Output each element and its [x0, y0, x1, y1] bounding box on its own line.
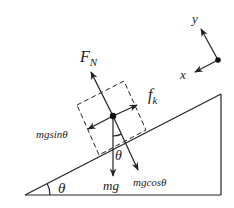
axes-origin-dot	[215, 57, 221, 63]
inner-angle-label: θ	[115, 148, 122, 163]
incline-surface	[25, 94, 221, 195]
force-arrows	[88, 72, 138, 176]
friction-arrow	[113, 105, 137, 116]
weight-label: mg	[103, 178, 119, 193]
normal-force-arrow	[91, 72, 113, 116]
coordinate-axes	[195, 29, 221, 72]
y-axis-arrow	[201, 29, 218, 60]
friction-label: fk	[148, 86, 158, 106]
inner-angle-arc	[113, 134, 121, 136]
normal-force-label: FN	[79, 48, 98, 68]
incline-triangle	[25, 94, 221, 195]
mg-cos-label: mgcosθ	[133, 176, 167, 188]
mg-sin-label: mgsinθ	[36, 128, 68, 140]
incline-diagram: θ θ FN fk mgsinθ mg mgcosθ y x	[0, 0, 234, 208]
center-of-mass-dot	[110, 113, 116, 119]
x-axis-arrow	[195, 60, 218, 72]
y-axis-label: y	[190, 11, 198, 26]
x-axis-label: x	[179, 67, 186, 82]
base-angle-label: θ	[58, 180, 66, 196]
mg-sin-arrow	[88, 116, 113, 129]
base-angle-arc	[47, 184, 50, 196]
